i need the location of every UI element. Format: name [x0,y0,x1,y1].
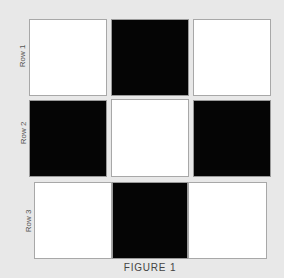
row-2-cell-3-black [193,100,271,177]
row-2-cell-2-white [111,99,189,177]
row-3-cell-1-white [34,182,112,259]
row-1-cell-3-white [193,19,271,96]
row-1-cell-1-white [29,19,107,96]
figure-caption: FIGURE 1 [0,262,284,273]
row-2-label: Row 2 [19,122,28,145]
row-1-cell-2-black [111,19,189,96]
row-2-cell-1-black [29,100,107,177]
row-3-cell-2-black [112,182,188,259]
row-1-label: Row 1 [18,45,27,68]
row-3-cell-3-white [188,182,267,259]
row-3-label: Row 3 [24,210,33,233]
